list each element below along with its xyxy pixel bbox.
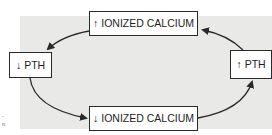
node-label: PTH: [245, 59, 266, 70]
arrow-left-to-bottom: [30, 78, 86, 118]
node-decreased-ionized-calcium: ↓ IONIZED CALCIUM: [89, 106, 198, 131]
up-arrow-icon: ↑: [236, 59, 241, 70]
node-increased-ionized-calcium: ↑ IONIZED CALCIUM: [89, 11, 198, 36]
node-label: IONIZED CALCIUM: [101, 18, 194, 29]
node-decreased-pth: ↓ PTH: [9, 52, 52, 78]
down-arrow-icon: ↓: [16, 60, 21, 71]
arrow-top-to-left: [48, 31, 89, 49]
caption-fragment: -: [2, 113, 4, 119]
down-arrow-icon: ↓: [93, 113, 98, 124]
arrow-bottom-to-right: [198, 82, 252, 118]
node-increased-pth: ↑ PTH: [230, 50, 272, 79]
arrow-right-to-top: [203, 30, 243, 50]
up-arrow-icon: ↑: [93, 18, 98, 29]
caption-fragment: n.: [2, 121, 6, 127]
node-label: IONIZED CALCIUM: [101, 113, 194, 124]
node-label: PTH: [24, 60, 45, 71]
